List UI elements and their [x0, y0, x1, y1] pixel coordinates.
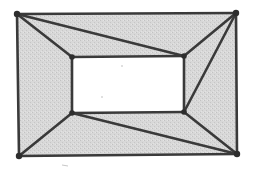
inner-hole: [72, 56, 184, 113]
edge-B-C: [236, 13, 237, 154]
edge-A-B: [17, 13, 236, 14]
planar-graph-diagram: [0, 0, 255, 174]
vertex-outer-top-right: [233, 10, 239, 16]
vertex-outer-bottom-left: [16, 153, 22, 159]
vertex-inner-top-left: [69, 54, 75, 60]
speck: [121, 65, 123, 67]
stray-mark: [62, 165, 68, 166]
edge-E-F: [72, 56, 184, 57]
vertex-inner-top-right: [181, 53, 187, 59]
vertex-inner-bottom-left: [69, 110, 75, 116]
vertex-outer-bottom-right: [234, 151, 240, 157]
vertex-inner-bottom-right: [181, 109, 187, 115]
edge-G-H: [72, 112, 184, 113]
vertex-outer-top-left: [14, 11, 20, 17]
speck: [101, 96, 103, 98]
